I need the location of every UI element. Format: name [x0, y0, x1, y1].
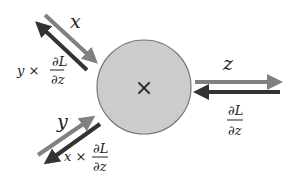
output-z-arrows: z ∂L ∂z [195, 52, 280, 138]
forward-label-x: x [70, 10, 81, 32]
multiply-node: × [97, 40, 191, 134]
input-y-arrows: y x × ∂L ∂z [38, 110, 108, 174]
forward-label-y: y [56, 110, 68, 132]
computational-graph-diagram: × x y × ∂L ∂z y x × ∂L ∂z z ∂L ∂z [0, 0, 297, 185]
multiply-operator: × [135, 75, 153, 100]
backward-label-z-denominator: ∂z [228, 123, 242, 138]
backward-label-y-numerator: ∂L [93, 141, 108, 156]
backward-label-x-prefix: y × [16, 63, 39, 78]
backward-label-z-numerator: ∂L [228, 103, 243, 118]
input-x-arrows: x y × ∂L ∂z [16, 10, 95, 87]
forward-label-z: z [222, 52, 234, 74]
backward-label-y-prefix: x × [64, 149, 86, 164]
backward-label-y-denominator: ∂z [93, 159, 107, 174]
backward-label-x-numerator: ∂L [52, 54, 67, 69]
backward-label-x-denominator: ∂z [51, 72, 65, 87]
